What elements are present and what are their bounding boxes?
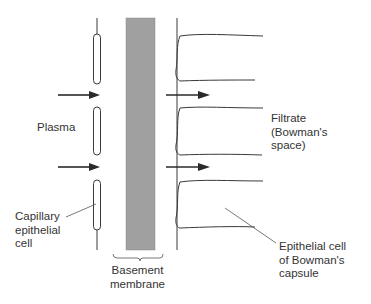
label-capillary-epithelial-cell: Capillary epithelial cell (15, 210, 60, 251)
label-filtrate: Filtrate (Bowman's space) (271, 112, 328, 153)
leader-bowman-cell (225, 208, 276, 243)
label-bowman-epithelial-cell: Epithelial cell of Bowman's capsule (279, 240, 346, 281)
leader-capillary-cell (66, 204, 96, 217)
arrow-filtrate-2 (166, 163, 210, 171)
basement-membrane (126, 18, 155, 250)
bowman-epithelium (176, 18, 263, 250)
capillary-wall (94, 18, 101, 250)
arrow-filtrate-1 (166, 91, 210, 99)
label-plasma: Plasma (37, 121, 75, 135)
arrow-plasma-1 (58, 91, 100, 99)
label-basement-membrane: Basement membrane (110, 264, 165, 291)
arrow-plasma-2 (58, 163, 100, 171)
basement-brace (113, 254, 163, 261)
